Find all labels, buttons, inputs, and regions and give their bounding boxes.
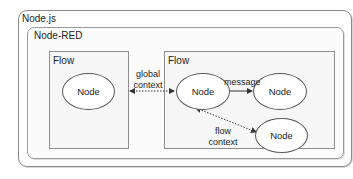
node-n3: Node [253,73,307,110]
flow-context-label-line1: flow [206,126,240,137]
flow-context-label: flow context [206,126,240,147]
global-context-label-line1: global [132,69,164,80]
flow-context-label-line2: context [206,137,240,148]
node-n4: Node [255,118,308,153]
node-label: Node [192,86,215,97]
nodered-label: Node-RED [34,30,82,41]
node-label: Node [77,86,100,97]
global-context-label-line2: context [132,80,164,91]
node-n2: Node [176,73,230,110]
node-label: Node [269,86,292,97]
message-label: message [224,77,260,88]
flow-left-label: Flow [53,55,74,66]
node-n1: Node [62,73,115,110]
node-label: Node [270,130,293,141]
nodejs-label: Node.js [22,13,56,24]
flow-right-label: Flow [168,55,189,66]
global-context-label: global context [132,69,164,90]
